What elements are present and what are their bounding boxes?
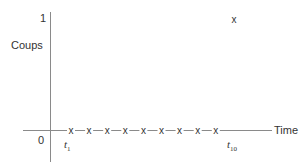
data-point-marker-t10: x [231, 14, 236, 25]
data-point-marker-t4: x [123, 125, 128, 136]
coups-over-time-chart: xxxxxxxxxx 1 Coups 0 Time t1 t10 [0, 0, 306, 165]
y-tick-label-0: 0 [38, 134, 44, 146]
y-axis-title: Coups [11, 39, 43, 51]
data-point-marker-t9: x [213, 125, 218, 136]
data-markers: xxxxxxxxxx [67, 14, 236, 137]
x-tick-label-t10: t10 [227, 138, 237, 153]
data-point-marker-t5: x [141, 125, 146, 136]
data-point-marker-t1: x [69, 125, 74, 136]
data-point-marker-t6: x [159, 125, 164, 136]
x-tick-label-t1: t1 [64, 138, 71, 153]
data-point-marker-t3: x [105, 125, 110, 136]
data-point-marker-t2: x [87, 125, 92, 136]
plot-area: xxxxxxxxxx [0, 0, 306, 165]
data-point-marker-t7: x [177, 125, 182, 136]
x-axis-title: Time [274, 124, 298, 136]
y-tick-label-1: 1 [40, 12, 46, 24]
data-point-marker-t8: x [195, 125, 200, 136]
